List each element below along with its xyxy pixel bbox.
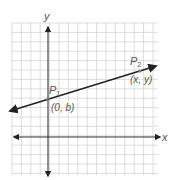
grid: [12, 23, 158, 175]
x-axis-label: x: [161, 131, 168, 143]
coordinate-plane: x y P1 (0, b) P2 (x, y): [0, 0, 177, 180]
point-p2: [138, 69, 141, 72]
p1-label: P1: [49, 84, 60, 97]
p2-coords: (x, y): [130, 74, 152, 85]
point-p1: [46, 97, 49, 100]
p2-label: P2: [130, 55, 141, 68]
y-axis-label: y: [43, 10, 51, 22]
p1-coords: (0, b): [51, 102, 74, 113]
